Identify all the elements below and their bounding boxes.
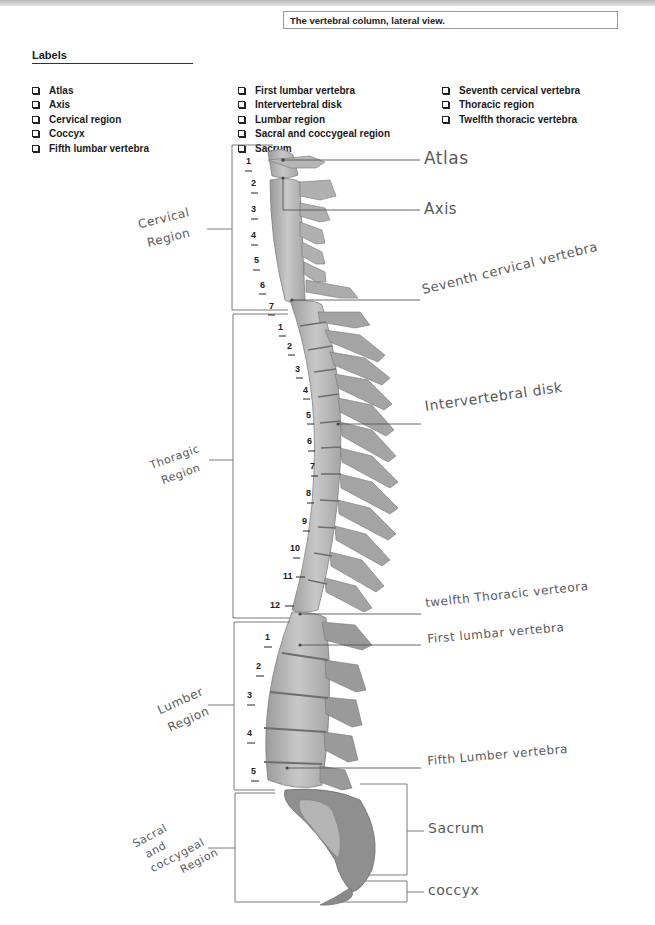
lumbar-number: 1 — [265, 632, 270, 642]
lumbar-number: 5 — [251, 766, 256, 776]
cervical-number: 2 — [251, 178, 256, 188]
thoracic-number: 9 — [302, 516, 307, 526]
lumbar-number: 4 — [247, 728, 252, 738]
thoracic-number: 7 — [310, 461, 315, 471]
thoracic-number: 12 — [270, 600, 280, 610]
vertebral-column-diagram — [0, 0, 655, 925]
spine-illustration — [264, 150, 398, 906]
cervical-number: 7 — [269, 301, 274, 311]
cervical-number: 5 — [254, 255, 259, 265]
thoracic-number: 6 — [307, 436, 312, 446]
annotation-sacrum: Sacrum — [428, 820, 484, 836]
lumbar-number: 3 — [247, 690, 252, 700]
thoracic-number: 3 — [295, 364, 300, 374]
annotation-coccyx: coccyx — [428, 882, 479, 898]
annotation-axis: Axis — [424, 200, 457, 218]
thoracic-number: 5 — [306, 410, 311, 420]
thoracic-number: 10 — [290, 543, 300, 553]
thoracic-number: 2 — [287, 341, 292, 351]
lumbar-number: 2 — [256, 661, 261, 671]
cervical-number: 6 — [260, 280, 265, 290]
thoracic-number: 1 — [278, 322, 283, 332]
thoracic-number: 11 — [283, 571, 293, 581]
thoracic-number: 4 — [303, 385, 308, 395]
cervical-number: 1 — [246, 156, 251, 166]
cervical-number: 4 — [251, 230, 256, 240]
cervical-number: 3 — [251, 204, 256, 214]
thoracic-number: 8 — [306, 488, 311, 498]
annotation-atlas: Atlas — [424, 148, 469, 168]
